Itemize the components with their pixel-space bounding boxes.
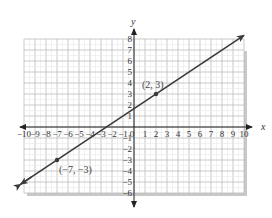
y-tick-label: 7: [128, 45, 133, 55]
y-tick-label: 6: [128, 56, 133, 66]
y-tick-label: 4: [128, 78, 133, 88]
x-tick-label: −9: [30, 129, 40, 139]
x-tick-label: 7: [209, 129, 214, 139]
y-tick-label: −5: [122, 177, 132, 187]
x-tick-label: 1: [143, 129, 148, 139]
x-tick-label: 3: [165, 129, 170, 139]
data-point: [55, 158, 59, 162]
x-tick-label: 5: [187, 129, 192, 139]
x-tick-label: −5: [74, 129, 84, 139]
data-point-label: (−7, −3): [59, 164, 92, 176]
x-tick-label: 4: [176, 129, 181, 139]
grid-shadow-right: [244, 51, 247, 196]
x-tick-label: 10: [240, 129, 250, 139]
y-tick-label: −4: [122, 166, 132, 176]
data-point-label: (2, 3): [142, 79, 164, 91]
x-tick-label: 9: [231, 129, 236, 139]
y-axis-label: y: [130, 16, 136, 27]
x-tick-label: −2: [107, 129, 117, 139]
grid-shadow-bottom: [27, 193, 247, 196]
y-tick-label: −3: [122, 155, 132, 165]
x-tick-label: 2: [154, 129, 159, 139]
y-tick-label: −1: [122, 133, 132, 143]
x-tick-label: −8: [41, 129, 51, 139]
x-tick-label: 8: [220, 129, 225, 139]
y-tick-label: −2: [122, 144, 132, 154]
y-tick-label: 3: [128, 89, 133, 99]
x-axis-label: x: [260, 121, 266, 132]
data-point: [154, 92, 158, 96]
y-tick-label: 8: [128, 34, 133, 44]
coordinate-plane: xy−10−9−8−7−6−5−4−3−2−1012345678910−6−5−…: [0, 0, 272, 218]
y-tick-label: 2: [128, 100, 133, 110]
x-tick-label: −7: [52, 129, 62, 139]
y-tick-label: −6: [122, 188, 132, 198]
y-tick-label: 5: [128, 67, 133, 77]
x-tick-label: −6: [63, 129, 73, 139]
x-tick-label: 6: [198, 129, 203, 139]
